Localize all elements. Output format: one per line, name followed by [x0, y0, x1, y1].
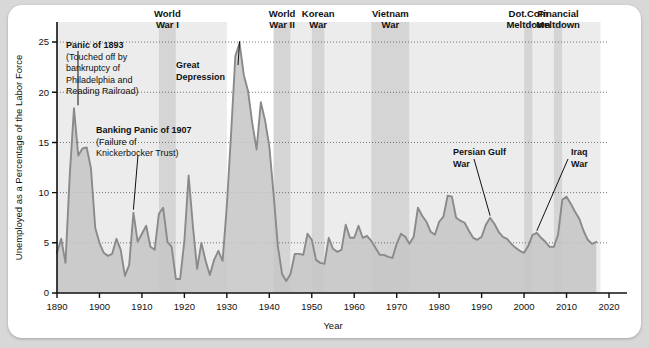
y-axis-title: Unemployed as a Percentage of the Labor …	[13, 55, 24, 260]
y-tick-label-0: 0	[44, 287, 49, 298]
panic-1893-line-5: Reading Railroad)	[66, 86, 139, 96]
unemployment-chart-figure: 0510152025189019001910192019301940195019…	[8, 5, 641, 338]
war-band-label-2: World	[269, 8, 296, 19]
panic-1893-line-4: Philadelphia and	[66, 75, 133, 85]
x-tick-label-1970: 1970	[386, 301, 407, 312]
banking-panic-1907-line-2: (Failure of	[96, 137, 137, 147]
war-band-label-6-line2: Meltdown	[536, 19, 580, 30]
x-tick-label-1900: 1900	[89, 301, 110, 312]
panic-1893-line-2: (Touched off by	[66, 52, 128, 62]
war-band-label-4: Vietnam	[372, 8, 409, 19]
great-depression-line-1: Great	[176, 60, 200, 70]
war-band-label-1: World	[154, 8, 181, 19]
iraq-war-line-1: Iraq	[571, 147, 588, 157]
x-tick-label-1930: 1930	[216, 301, 237, 312]
y-tick-label-15: 15	[38, 137, 49, 148]
banking-panic-1907-line-3: Knickerbocker Trust)	[96, 148, 179, 158]
war-band-label-1-line2: War I	[156, 19, 179, 30]
panic-1893-line-3: bankruptcy of	[66, 63, 121, 73]
y-tick-label-10: 10	[38, 187, 49, 198]
chart-card: 0510152025189019001910192019301940195019…	[8, 5, 641, 338]
iraq-war-line-2: War	[571, 159, 588, 169]
x-tick-label-1960: 1960	[344, 301, 365, 312]
persian-gulf-war-line-2: War	[453, 159, 470, 169]
banking-panic-1907-line-1: Banking Panic of 1907	[96, 125, 192, 135]
x-tick-label-1920: 1920	[174, 301, 195, 312]
x-tick-label-1990: 1990	[471, 301, 492, 312]
x-tick-label-1980: 1980	[429, 301, 450, 312]
x-tick-label-2020: 2020	[598, 301, 619, 312]
war-band-label-6: Financial	[537, 8, 578, 19]
x-axis-title: Year	[323, 320, 342, 331]
x-tick-label-2010: 2010	[556, 301, 577, 312]
great-depression-line-2: Depression	[176, 72, 225, 82]
y-tick-label-25: 25	[38, 36, 49, 47]
war-band-label-3: Korean	[302, 8, 335, 19]
x-tick-label-1890: 1890	[46, 301, 67, 312]
y-tick-label-5: 5	[44, 237, 49, 248]
persian-gulf-war-line-1: Persian Gulf	[453, 147, 507, 157]
x-tick-label-1940: 1940	[259, 301, 280, 312]
war-band-label-2-line2: War II	[269, 19, 295, 30]
war-band-label-4-line2: War	[382, 19, 400, 30]
panic-1893-line-1: Panic of 1893	[66, 40, 124, 50]
x-tick-label-1950: 1950	[301, 301, 322, 312]
x-tick-label-2000: 2000	[514, 301, 535, 312]
y-tick-label-20: 20	[38, 87, 49, 98]
unemployment-chart-svg: 0510152025189019001910192019301940195019…	[8, 5, 641, 338]
x-tick-label-1910: 1910	[131, 301, 152, 312]
war-band-label-3-line2: War	[309, 19, 327, 30]
